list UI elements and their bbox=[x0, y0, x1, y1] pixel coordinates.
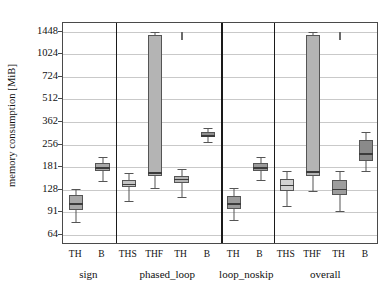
x-axis-group-labels: signphased_looploop_noskipoverall bbox=[62, 268, 378, 286]
boxplot-loop_noskip-TH bbox=[227, 23, 242, 245]
x-tick-label: THS bbox=[277, 249, 295, 259]
whisker-upper bbox=[102, 157, 103, 164]
y-tick-mark bbox=[58, 121, 62, 122]
plot-area bbox=[62, 22, 378, 244]
median-line bbox=[227, 203, 242, 204]
gridline bbox=[63, 167, 377, 168]
whisker-cap-upper bbox=[256, 157, 265, 158]
median-line bbox=[306, 171, 321, 172]
whisker-cap-upper bbox=[72, 189, 81, 190]
gridline bbox=[63, 190, 377, 191]
boxplot-sign-TH bbox=[69, 23, 84, 245]
whisker-upper bbox=[365, 132, 366, 140]
whisker-cap-upper bbox=[203, 128, 212, 129]
y-tick-mark bbox=[58, 166, 62, 167]
whisker-cap-upper bbox=[151, 32, 160, 33]
median-line bbox=[148, 172, 163, 173]
whisker-lower bbox=[313, 176, 314, 191]
whisker-cap-upper bbox=[361, 132, 370, 133]
box bbox=[359, 140, 374, 161]
y-tick-mark bbox=[58, 98, 62, 99]
median-line bbox=[122, 184, 137, 185]
boxplot-overall-B bbox=[359, 23, 374, 245]
x-axis-tick-labels: THBTHSTHFTHBTHBTHSTHFTHB bbox=[62, 249, 378, 265]
y-tick-label: 362 bbox=[18, 116, 58, 126]
gridline bbox=[63, 77, 377, 78]
boxplot-phased_loop-TH bbox=[174, 23, 189, 245]
whisker-cap-upper bbox=[230, 188, 239, 189]
boxplot-phased_loop-THF bbox=[148, 23, 163, 245]
y-tick-label: 181 bbox=[18, 161, 58, 171]
boxplot-loop_noskip-B bbox=[253, 23, 268, 245]
group-separator bbox=[116, 23, 118, 243]
whisker-lower bbox=[234, 209, 235, 220]
y-tick-mark bbox=[58, 234, 62, 235]
y-tick-label: 512 bbox=[18, 93, 58, 103]
median-line bbox=[95, 167, 110, 168]
boxplot-overall-THS bbox=[280, 23, 295, 245]
whisker-lower bbox=[181, 183, 182, 198]
box bbox=[332, 180, 347, 196]
median-line bbox=[174, 179, 189, 180]
whisker-cap-lower bbox=[256, 180, 265, 181]
boxplot-phased_loop-THS bbox=[122, 23, 137, 245]
box bbox=[69, 195, 84, 210]
y-tick-label: 91 bbox=[18, 206, 58, 216]
y-tick-mark bbox=[58, 76, 62, 77]
whisker-cap-lower bbox=[335, 211, 344, 212]
whisker-lower bbox=[128, 187, 129, 201]
group-label-sign: sign bbox=[79, 268, 97, 280]
gridline bbox=[63, 235, 377, 236]
y-tick-label: 128 bbox=[18, 184, 58, 194]
boxplot-phased_loop-B bbox=[201, 23, 216, 245]
x-tick-label: THF bbox=[303, 249, 321, 259]
box bbox=[148, 35, 163, 176]
group-label-overall: overall bbox=[310, 268, 341, 280]
whisker-cap-lower bbox=[151, 188, 160, 189]
x-tick-label: TH bbox=[332, 249, 345, 259]
whisker-cap-lower bbox=[309, 191, 318, 192]
gridline bbox=[63, 32, 377, 33]
y-tick-mark bbox=[58, 144, 62, 145]
median-line bbox=[359, 153, 374, 154]
whisker-cap-lower bbox=[177, 197, 186, 198]
whisker-lower bbox=[102, 171, 103, 182]
y-tick-mark bbox=[58, 211, 62, 212]
y-tick-mark bbox=[58, 189, 62, 190]
x-tick-label: THS bbox=[119, 249, 137, 259]
group-label-loop_noskip: loop_noskip bbox=[219, 268, 273, 280]
boxplot-sign-B bbox=[95, 23, 110, 245]
y-axis-tick-labels: 144810247245123622561811289164 bbox=[14, 22, 58, 244]
whisker-cap-lower bbox=[124, 201, 133, 202]
whisker-lower bbox=[76, 210, 77, 222]
y-tick-mark bbox=[58, 53, 62, 54]
whisker-lower bbox=[365, 161, 366, 171]
whisker-lower bbox=[260, 171, 261, 180]
y-tick-label: 724 bbox=[18, 71, 58, 81]
whisker-upper bbox=[234, 188, 235, 196]
y-tick-label: 1024 bbox=[18, 48, 58, 58]
gridline bbox=[63, 99, 377, 100]
boxplot-chart: memory consumption [MiB] 144810247245123… bbox=[0, 0, 388, 306]
x-tick-label: TH bbox=[69, 249, 82, 259]
group-separator bbox=[221, 23, 223, 243]
whisker-upper bbox=[339, 171, 340, 180]
median-line bbox=[201, 135, 216, 136]
whisker-cap-lower bbox=[230, 220, 239, 221]
median-line bbox=[69, 203, 84, 204]
group-label-phased_loop: phased_loop bbox=[139, 268, 195, 280]
y-tick-label: 1448 bbox=[18, 26, 58, 36]
group-separator bbox=[274, 23, 276, 243]
whisker-cap-lower bbox=[361, 171, 370, 172]
gridline bbox=[63, 145, 377, 146]
whisker-lower bbox=[155, 176, 156, 189]
x-tick-label: THF bbox=[145, 249, 163, 259]
whisker-upper bbox=[286, 171, 287, 179]
x-tick-label: TH bbox=[227, 249, 240, 259]
whisker-cap-lower bbox=[98, 181, 107, 182]
x-tick-label: TH bbox=[174, 249, 187, 259]
gridline bbox=[63, 54, 377, 55]
whisker-cap-upper bbox=[124, 173, 133, 174]
y-tick-mark bbox=[58, 31, 62, 32]
median-line bbox=[332, 189, 347, 190]
